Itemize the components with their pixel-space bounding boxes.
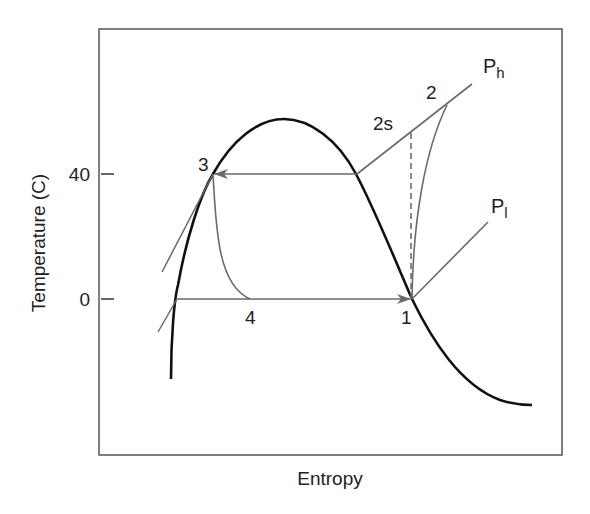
process-3-4 (213, 174, 250, 299)
y-tick-label-40: 40 (69, 164, 90, 185)
y-axis-label: Temperature (C) (28, 174, 49, 312)
ph-subscript: h (496, 64, 504, 81)
ts-diagram: 40 0 Temperature (C) Entropy 3 4 1 2s 2 … (0, 0, 590, 514)
point-label-2: 2 (426, 82, 437, 103)
pl-isobar-superheat (412, 222, 488, 299)
point-label-1: 1 (401, 307, 412, 328)
y-tick-label-0: 0 (79, 289, 90, 310)
ph-base: P (483, 55, 496, 77)
point-label-2s: 2s (373, 113, 393, 134)
pl-subscript: l (504, 204, 507, 221)
point-label-3: 3 (198, 154, 209, 175)
point-label-4: 4 (245, 307, 256, 328)
ph-isobar-left (162, 174, 213, 272)
pl-base: P (491, 195, 504, 217)
saturation-dome (171, 119, 532, 405)
plot-frame (99, 29, 562, 455)
isobar-label-pl: Pl (491, 195, 508, 221)
x-axis-label: Entropy (297, 468, 363, 489)
isobar-label-ph: Ph (483, 55, 505, 81)
